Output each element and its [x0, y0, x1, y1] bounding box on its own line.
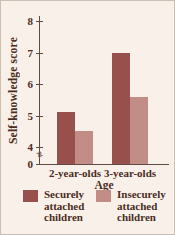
x-tick-label-3-year-olds: 3-year-olds: [90, 167, 170, 179]
axis-break-mark: ≈: [31, 146, 49, 164]
y-tick-label-6: 6: [13, 79, 33, 90]
y-tick-label-5: 5: [13, 111, 33, 122]
legend-swatch-securely-attached: [23, 190, 38, 202]
legend-swatch-insecurely-attached: [96, 190, 111, 202]
y-tick-mark-0: [36, 164, 43, 165]
bar-securely-2-year-olds: [57, 112, 75, 164]
y-tick-mark-6: [36, 84, 43, 85]
y-tick-mark-5: [36, 116, 43, 117]
legend-item-insecurely-attached: Insecurely attached children: [96, 189, 166, 224]
legend-label-insecurely-attached: Insecurely attached children: [117, 189, 166, 224]
y-tick-label-7: 7: [13, 48, 33, 59]
legend-item-securely-attached: Securely attached children: [23, 189, 84, 224]
y-tick-mark-8: [36, 21, 43, 22]
y-axis-line: [39, 16, 40, 165]
bar-chart-figure: Self-knowledge score 045678 ≈ 2-year-old…: [0, 0, 175, 235]
y-tick-label-0: 0: [13, 159, 33, 170]
y-tick-mark-7: [36, 53, 43, 54]
bar-insecurely-3-year-olds: [130, 97, 148, 164]
x-axis-line: [39, 164, 169, 165]
y-tick-label-8: 8: [13, 16, 33, 27]
legend-label-securely-attached: Securely attached children: [44, 189, 84, 224]
bar-securely-3-year-olds: [112, 53, 130, 165]
bar-insecurely-2-year-olds: [75, 131, 93, 164]
